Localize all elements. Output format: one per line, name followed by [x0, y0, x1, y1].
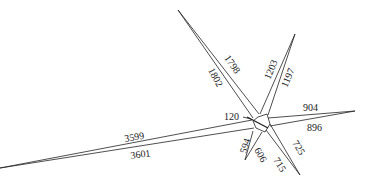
label-center: 120: [224, 111, 239, 122]
arm-west: [0, 120, 254, 168]
junction-center: [253, 114, 270, 132]
label-ne-right: 1197: [279, 66, 297, 88]
label-se-right: 725: [290, 138, 307, 157]
label-nw-left: 1802: [206, 66, 225, 89]
junction-diagram: 120 1802 1798 1203 1197 904 896 715 725 …: [0, 0, 376, 190]
label-nw-right: 1798: [222, 53, 242, 76]
label-e-bottom: 896: [307, 122, 322, 133]
label-w-top: 3599: [123, 130, 145, 144]
label-s-right: 606: [252, 146, 269, 164]
label-e-top: 904: [303, 102, 318, 113]
label-se-left: 715: [271, 155, 288, 174]
label-w-bottom: 3601: [130, 147, 151, 161]
label-ne-left: 1203: [262, 58, 280, 81]
arm-northwest: [178, 10, 259, 118]
